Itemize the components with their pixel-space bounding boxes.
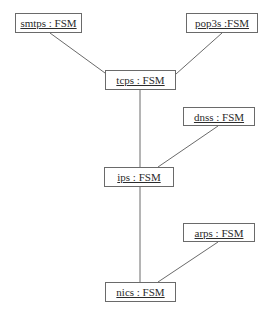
node-tcps: tcps : FSM [105, 70, 176, 90]
node-arps: arps : FSM [183, 223, 255, 242]
node-smtps: smtps : FSM [15, 13, 82, 33]
connector-layer [0, 0, 270, 314]
edge-pop3s-tcps [176, 33, 222, 74]
edge-dnss-ips [158, 126, 218, 167]
object-diagram: smtps : FSM pop3s :FSM tcps : FSM dnss :… [0, 0, 270, 314]
edge-arps-nics [158, 242, 218, 282]
node-dnss: dnss : FSM [183, 107, 255, 126]
node-ips: ips : FSM [104, 167, 174, 187]
node-nics: nics : FSM [105, 282, 176, 302]
edge-smtps-tcps [50, 33, 105, 73]
node-pop3s: pop3s :FSM [186, 13, 258, 33]
